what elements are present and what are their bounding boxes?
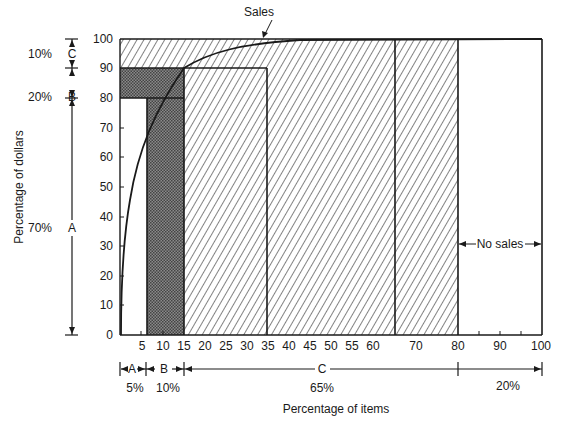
svg-text:50: 50 <box>100 180 114 194</box>
svg-text:45: 45 <box>303 339 317 353</box>
svg-text:30: 30 <box>100 239 114 253</box>
svg-text:C: C <box>318 362 327 376</box>
svg-text:0: 0 <box>106 328 113 342</box>
svg-text:60: 60 <box>366 339 380 353</box>
svg-text:90: 90 <box>100 61 114 75</box>
svg-text:100: 100 <box>93 32 113 46</box>
svg-text:B: B <box>68 90 76 104</box>
sales-arrow <box>262 20 272 38</box>
svg-text:55: 55 <box>345 339 359 353</box>
svg-text:70: 70 <box>409 339 423 353</box>
svg-text:70: 70 <box>100 121 114 135</box>
x-axis-title: Percentage of items <box>283 402 390 416</box>
sales-label: Sales <box>244 5 274 19</box>
svg-text:25: 25 <box>219 339 233 353</box>
svg-text:100: 100 <box>531 339 551 353</box>
x-tick-labels: 5 10 15 20 25 30 35 40 45 50 55 60 70 80… <box>139 339 552 353</box>
svg-text:50: 50 <box>324 339 338 353</box>
svg-text:10%: 10% <box>28 47 52 61</box>
svg-text:No sales: No sales <box>477 237 524 251</box>
svg-text:30: 30 <box>240 339 254 353</box>
svg-text:15: 15 <box>177 339 191 353</box>
svg-text:20%: 20% <box>496 379 520 393</box>
svg-text:90: 90 <box>493 339 507 353</box>
svg-text:5%: 5% <box>126 381 144 395</box>
svg-text:20%: 20% <box>28 90 52 104</box>
no-sales-annotation: No sales <box>459 237 541 251</box>
svg-text:70%: 70% <box>28 221 52 235</box>
svg-text:10%: 10% <box>156 381 180 395</box>
svg-text:80: 80 <box>100 91 114 105</box>
svg-text:10: 10 <box>100 298 114 312</box>
svg-text:65%: 65% <box>310 381 334 395</box>
svg-text:5: 5 <box>139 339 146 353</box>
x-brackets <box>120 362 542 376</box>
svg-text:B: B <box>160 362 168 376</box>
svg-text:40: 40 <box>100 210 114 224</box>
svg-text:60: 60 <box>100 150 114 164</box>
x-bracket-labels: A B C 5% 10% 65% 20% <box>126 362 520 395</box>
y-brackets <box>65 39 78 335</box>
svg-text:20: 20 <box>100 269 114 283</box>
svg-text:A: A <box>128 362 136 376</box>
y-tick-labels: 0 10 20 30 40 50 60 70 80 90 100 <box>93 32 113 342</box>
abc-analysis-chart: 0 10 20 30 40 50 60 70 80 90 100 5 10 15… <box>0 0 561 423</box>
y-axis-title: Percentage of dollars <box>12 130 26 243</box>
svg-text:10: 10 <box>156 339 170 353</box>
svg-text:40: 40 <box>282 339 296 353</box>
svg-text:35: 35 <box>261 339 275 353</box>
svg-text:A: A <box>68 221 76 235</box>
svg-text:C: C <box>68 47 77 61</box>
svg-text:20: 20 <box>198 339 212 353</box>
svg-text:80: 80 <box>451 339 465 353</box>
